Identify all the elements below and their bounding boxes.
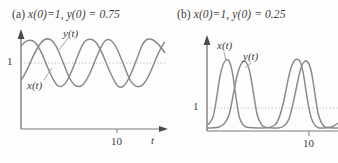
panel-b-leader-xt: [224, 52, 226, 61]
panel-a-x-tick-label-10: 10: [111, 135, 122, 147]
panel-b-curve-yt: [207, 61, 338, 128]
panel-b-series-label-yt: y(t): [243, 50, 258, 62]
panel-a-y-axis-arrow: [18, 29, 25, 39]
panel-b: (b) x(0)=1, y(0) = 0.25: [169, 0, 338, 163]
panel-a-y-tick-label-1: 1: [7, 55, 13, 67]
figure-container: (a) x(0)=1, y(0) = 0.75: [0, 0, 338, 163]
panel-b-curve-xt: [207, 59, 338, 128]
panel-b-y-axis-arrow: [204, 35, 211, 45]
panel-a-series-label-yt: y(t): [63, 27, 78, 39]
panel-b-series-label-xt: x(t): [217, 39, 232, 51]
panel-b-y-tick-label-1: 1: [193, 100, 199, 112]
panel-a-x-axis-arrow: [159, 126, 168, 132]
panel-a: (a) x(0)=1, y(0) = 0.75: [0, 0, 169, 163]
panel-a-plot: [0, 0, 169, 163]
panel-a-leader-yt: [59, 38, 68, 50]
panel-a-x-axis-label: t: [151, 134, 154, 146]
panel-a-series-label-xt: x(t): [27, 79, 42, 91]
panel-b-x-tick-label-10: 10: [303, 137, 314, 149]
